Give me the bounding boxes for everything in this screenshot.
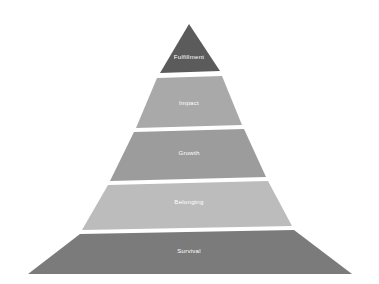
pyramid-diagram: Survival Belonging Growth Impact Fulfill… — [0, 0, 379, 284]
tier-label-growth: Growth — [178, 149, 200, 156]
pyramid-tier-growth[interactable]: Growth — [110, 129, 266, 181]
tier-label-fulfillment: Fulfillment — [174, 53, 204, 60]
tier-shape-belonging[interactable] — [82, 181, 292, 230]
tier-label-survival: Survival — [177, 247, 201, 254]
pyramid-tier-belonging[interactable]: Belonging — [82, 181, 292, 230]
tier-label-belonging: Belonging — [174, 198, 204, 205]
tier-label-impact: Impact — [179, 99, 199, 106]
pyramid-canvas: Survival Belonging Growth Impact Fulfill… — [0, 0, 379, 284]
